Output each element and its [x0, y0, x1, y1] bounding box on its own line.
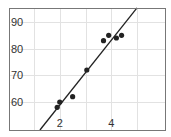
data-point [70, 94, 75, 99]
data-point [114, 35, 119, 40]
y-tick-label: 60 [11, 96, 23, 108]
y-tick-label: 70 [11, 69, 23, 81]
x-tick-label: 2 [57, 117, 63, 129]
x-tick-label: 4 [108, 117, 114, 129]
data-point [106, 33, 111, 38]
y-axis-tick-labels: 60708090 [11, 16, 23, 108]
data-point [57, 99, 62, 104]
y-tick-label: 90 [11, 16, 23, 28]
data-point [119, 33, 124, 38]
data-point [55, 105, 60, 110]
data-point [84, 67, 89, 72]
scatter-chart: 60708090 24 [0, 0, 171, 137]
x-axis-tick-labels: 24 [57, 117, 115, 129]
data-point [101, 38, 106, 43]
y-tick-label: 80 [11, 43, 23, 55]
